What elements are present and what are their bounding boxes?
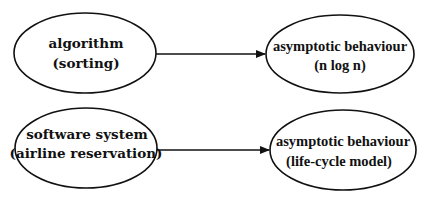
node-asymptotic-lifecycle-line2: (life-cycle model) bbox=[286, 153, 392, 170]
node-asymptotic-nlogn: asymptotic behaviour (n log n) bbox=[266, 15, 414, 93]
node-software-system: software system (airline reservation) bbox=[10, 108, 163, 188]
node-asymptotic-lifecycle-ellipse bbox=[270, 110, 416, 190]
node-algorithm-line1: algorithm bbox=[49, 35, 124, 51]
node-software-system-line1: software system bbox=[26, 126, 148, 142]
node-algorithm-line2: (sorting) bbox=[52, 55, 119, 71]
diagram-canvas: algorithm (sorting) asymptotic behaviour… bbox=[0, 0, 428, 202]
node-algorithm: algorithm (sorting) bbox=[14, 13, 156, 93]
node-algorithm-ellipse bbox=[14, 13, 156, 93]
node-asymptotic-lifecycle: asymptotic behaviour (life-cycle model) bbox=[270, 110, 416, 190]
node-asymptotic-nlogn-ellipse bbox=[266, 15, 414, 93]
node-software-system-line2: (airline reservation) bbox=[10, 145, 163, 161]
node-asymptotic-nlogn-line2: (n log n) bbox=[314, 57, 366, 74]
node-asymptotic-lifecycle-line1: asymptotic behaviour bbox=[276, 133, 411, 149]
node-asymptotic-nlogn-line1: asymptotic behaviour bbox=[273, 38, 408, 54]
